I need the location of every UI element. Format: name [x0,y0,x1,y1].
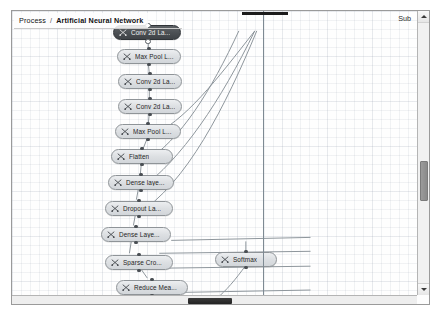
graph-node-dense_1[interactable]: Dense laye... [108,175,174,190]
scroll-down-icon[interactable] [418,283,429,295]
operator-icon [119,29,127,36]
graph-node-label: Dense laye... [126,179,165,186]
node-port-top[interactable] [137,199,140,202]
node-port-bottom[interactable] [140,163,143,166]
node-port-bottom[interactable] [137,215,140,218]
graph-node-label: Conv 2d La... [131,29,170,36]
graph-node-label: Max Pool L... [133,128,172,135]
graph-node-label: Sparse Cro... [123,259,162,266]
graph-node-dense_2[interactable]: Dense Laye... [101,227,171,242]
selection-marker-bar [242,12,288,15]
node-port-bottom[interactable] [145,39,151,45]
operator-icon [111,259,119,266]
vertical-scrollbar[interactable] [417,11,429,295]
breadcrumb-item-process[interactable]: Process [19,16,46,25]
horizontal-scrollbar-thumb[interactable] [188,298,232,304]
graph-node-maxpool_2[interactable]: Max Pool L... [115,124,181,139]
process-editor-window: Process / Artificial Neural Network Sub [11,10,430,305]
graph-node-conv2d_3[interactable]: Conv 2d La... [118,99,182,114]
node-port-top[interactable] [147,47,150,50]
node-port-top[interactable] [148,97,151,100]
operator-icon [122,284,130,291]
operator-icon [221,256,229,263]
graph-node-label: Reduce Mea... [134,284,177,291]
graph-edges [12,11,417,295]
sub-label: Sub [398,14,411,23]
node-port-bottom[interactable] [146,138,149,141]
operator-icon [123,53,131,60]
operator-icon [117,153,125,160]
graph-node-softmax[interactable]: Softmax [215,252,277,267]
graph-node-label: Flatten [129,153,149,160]
node-port-bottom[interactable] [134,241,137,244]
graph-node-sparse_cro[interactable]: Sparse Cro... [105,255,173,270]
node-port-bottom[interactable] [137,269,140,272]
graph-node-dropout[interactable]: Dropout La... [105,201,173,216]
graph-canvas[interactable]: Process / Artificial Neural Network Sub [12,11,417,295]
node-port-bottom[interactable] [148,113,151,116]
node-port-top[interactable] [146,122,149,125]
graph-node-label: Dropout La... [123,205,161,212]
graph-node-flatten[interactable]: Flatten [111,149,173,164]
operator-icon [121,128,129,135]
node-port-top[interactable] [137,253,140,256]
vertical-scrollbar-thumb[interactable] [420,161,429,201]
node-port-top[interactable] [148,72,151,75]
node-port-top[interactable] [150,278,153,281]
breadcrumb-separator: / [50,16,52,25]
vertical-guide-line [263,11,264,295]
node-port-bottom[interactable] [139,189,142,192]
graph-node-label: Conv 2d La... [136,78,175,85]
breadcrumb-item-current[interactable]: Artificial Neural Network [56,16,143,25]
operator-icon [107,231,115,238]
horizontal-scrollbar[interactable] [12,295,417,304]
scroll-up-icon[interactable] [418,11,429,23]
node-port-top[interactable] [140,147,143,150]
node-port-top[interactable] [244,250,247,253]
operator-icon [124,78,132,85]
breadcrumb: Process / Artificial Neural Network [14,13,148,28]
graph-node-reduce_mean[interactable]: Reduce Mea... [116,280,188,295]
node-port-bottom[interactable] [244,266,247,269]
operator-icon [124,103,132,110]
graph-node-label: Conv 2d La... [136,103,175,110]
node-port-top[interactable] [139,173,142,176]
graph-node-label: Softmax [233,256,257,263]
operator-icon [111,205,119,212]
graph-node-conv2d_2[interactable]: Conv 2d La... [118,74,182,89]
graph-node-label: Dense Laye... [119,231,160,238]
graph-node-label: Max Pool L... [135,53,174,60]
breadcrumb-underline [14,28,182,29]
node-port-bottom[interactable] [147,63,150,66]
operator-icon [114,179,122,186]
graph-node-maxpool_1[interactable]: Max Pool L... [117,49,181,64]
node-port-bottom[interactable] [148,88,151,91]
node-port-top[interactable] [134,225,137,228]
